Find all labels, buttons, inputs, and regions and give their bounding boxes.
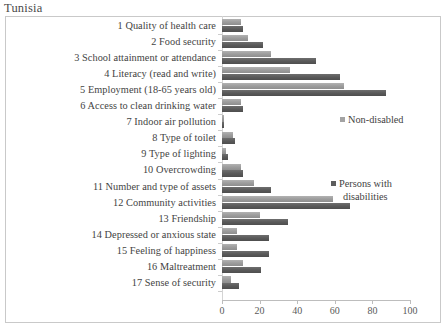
chart-category-row: 14 Depressed or anxious state <box>0 227 444 243</box>
category-label: 16 Maltreatment <box>6 259 216 275</box>
x-axis-tick-label: 40 <box>282 305 312 317</box>
category-label: 5 Employment (18-65 years old) <box>6 82 216 98</box>
category-label: 14 Depressed or anxious state <box>6 227 216 243</box>
bar-group <box>222 146 422 162</box>
bar-group <box>222 211 422 227</box>
bar-persons-with-disabilities <box>222 58 316 64</box>
bar-persons-with-disabilities <box>222 106 243 112</box>
chart-category-row: 4 Literacy (read and write) <box>0 66 444 82</box>
x-axis-tick <box>260 300 261 304</box>
category-tick <box>218 179 222 180</box>
chart-category-row: 16 Maltreatment <box>0 259 444 275</box>
x-axis-tick <box>410 300 411 304</box>
x-axis-tick-label: 0 <box>207 305 237 317</box>
bar-non-disabled <box>222 51 271 57</box>
bar-non-disabled <box>222 164 241 170</box>
chart-category-row: 1 Quality of health care <box>0 18 444 34</box>
x-axis-tick <box>297 300 298 304</box>
chart-category-row: 15 Feeling of happiness <box>0 243 444 259</box>
bar-non-disabled <box>222 99 241 105</box>
x-axis-line <box>222 300 410 301</box>
category-tick <box>218 146 222 147</box>
bar-persons-with-disabilities <box>222 235 269 241</box>
category-tick <box>218 50 222 51</box>
bar-group <box>222 50 422 66</box>
category-label: 3 School attainment or attendance <box>6 50 216 66</box>
category-tick <box>218 259 222 260</box>
x-axis-tick-label: 20 <box>245 305 275 317</box>
bar-persons-with-disabilities <box>222 219 288 225</box>
bar-group <box>222 275 422 291</box>
category-label: 10 Overcrowding <box>6 162 216 178</box>
bar-group <box>222 259 422 275</box>
category-label: 11 Number and type of assets <box>6 179 216 195</box>
category-label: 13 Friendship <box>6 211 216 227</box>
category-tick <box>218 130 222 131</box>
bar-non-disabled <box>222 196 333 202</box>
bar-persons-with-disabilities <box>222 154 228 160</box>
bar-group <box>222 82 422 98</box>
category-label: 7 Indoor air pollution <box>6 114 216 130</box>
category-tick <box>218 195 222 196</box>
chart-category-row: 2 Food security <box>0 34 444 50</box>
category-tick <box>218 34 222 35</box>
bar-non-disabled <box>222 212 260 218</box>
chart-category-row: 13 Friendship <box>0 211 444 227</box>
category-rows: 1 Quality of health care2 Food security3… <box>0 0 444 329</box>
bar-non-disabled <box>222 83 344 89</box>
bar-non-disabled <box>222 132 233 138</box>
category-tick <box>218 66 222 67</box>
bar-group <box>222 227 422 243</box>
bar-non-disabled <box>222 148 226 154</box>
bar-persons-with-disabilities <box>222 74 340 80</box>
chart-category-row: 6 Access to clean drinking water <box>0 98 444 114</box>
bar-persons-with-disabilities <box>222 42 263 48</box>
bar-non-disabled <box>222 276 231 282</box>
bar-non-disabled <box>222 260 243 266</box>
category-label: 15 Feeling of happiness <box>6 243 216 259</box>
category-tick <box>218 291 222 292</box>
x-axis-tick-label: 60 <box>320 305 350 317</box>
category-tick <box>218 114 222 115</box>
x-axis-tick-label: 80 <box>357 305 387 317</box>
x-axis-tick <box>335 300 336 304</box>
category-label: 9 Type of lighting <box>6 146 216 162</box>
x-axis-tick <box>222 300 223 304</box>
legend-label-pwd-line2: disabilities <box>343 190 426 203</box>
bar-persons-with-disabilities <box>222 26 243 32</box>
category-label: 12 Community activities <box>6 195 216 211</box>
bar-non-disabled <box>222 115 224 121</box>
chart-category-row: 3 School attainment or attendance <box>0 50 444 66</box>
bar-persons-with-disabilities <box>222 90 386 96</box>
chart-container: Tunisia 1 Quality of health care2 Food s… <box>0 0 444 329</box>
legend-label-pwd-line1: Persons with <box>339 178 392 189</box>
bar-non-disabled <box>222 35 248 41</box>
bar-persons-with-disabilities <box>222 251 269 257</box>
bar-persons-with-disabilities <box>222 267 261 273</box>
legend-item-persons-with-disabilities: Persons with disabilities <box>331 177 426 203</box>
bar-group <box>222 18 422 34</box>
bar-group <box>222 243 422 259</box>
bar-group <box>222 34 422 50</box>
bar-non-disabled <box>222 19 241 25</box>
bar-persons-with-disabilities <box>222 138 235 144</box>
bar-group <box>222 130 422 146</box>
category-tick <box>218 243 222 244</box>
category-tick <box>218 227 222 228</box>
x-axis-tick <box>372 300 373 304</box>
legend-label-non-disabled: Non-disabled <box>348 114 403 125</box>
bar-persons-with-disabilities <box>222 283 239 289</box>
x-axis-tick-label: 100 <box>395 305 425 317</box>
category-tick <box>218 211 222 212</box>
category-tick <box>218 82 222 83</box>
chart-category-row: 17 Sense of security <box>0 275 444 291</box>
bar-group <box>222 98 422 114</box>
chart-category-row: 9 Type of lighting <box>0 146 444 162</box>
category-label: 17 Sense of security <box>6 275 216 291</box>
bar-non-disabled <box>222 228 237 234</box>
category-label: 1 Quality of health care <box>6 18 216 34</box>
bar-non-disabled <box>222 180 254 186</box>
bar-group <box>222 66 422 82</box>
bar-persons-with-disabilities <box>222 170 243 176</box>
category-tick <box>218 275 222 276</box>
